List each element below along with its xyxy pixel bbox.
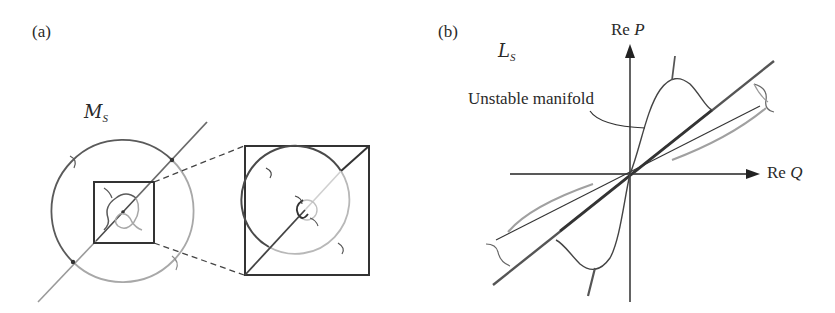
intersection-dot-lower	[71, 260, 75, 264]
manifold-label-main: M	[84, 101, 102, 122]
dashed-connector-bottom	[154, 243, 244, 275]
y-axis-label: Re P	[611, 20, 645, 40]
zoomed-tick-left	[266, 168, 271, 178]
x-axis-label: Re Q	[767, 163, 802, 183]
inner-loop-light	[115, 198, 142, 230]
x-axis-arrowhead	[746, 169, 760, 179]
zoomed-diagonal-dark-lower	[245, 210, 305, 275]
manifold-label-sub: S	[102, 112, 108, 124]
unstable-branch-top	[672, 56, 675, 80]
panel-a-label: (a)	[32, 22, 51, 42]
diagonal-line-lower	[38, 241, 96, 302]
lagrangian-label-sub: S	[510, 51, 516, 63]
y-axis-arrowhead	[625, 44, 635, 58]
inner-loop-tick	[104, 188, 112, 198]
annotation-pointer	[590, 111, 645, 128]
zoomed-diagonal-light	[305, 171, 341, 210]
zoomed-tick-right	[338, 243, 343, 254]
x-axis-label-var: Q	[790, 163, 802, 182]
figure: (a) MS (b) LS Re P Re Q Unstable manifol…	[0, 0, 835, 313]
zoomed-circle-dark-arc	[241, 146, 341, 247]
outer-circle-light-arc	[73, 160, 194, 282]
zoomed-diagonal-dark-upper	[341, 146, 369, 171]
unstable-manifold-upper	[630, 79, 712, 174]
manifold-thick-diagonal-mid	[560, 110, 712, 231]
zoomed-circle-light-arc	[269, 171, 349, 254]
manifold-label-m-s: MS	[84, 101, 108, 122]
diagram-canvas	[0, 0, 835, 313]
unstable-manifold-lower	[556, 174, 630, 269]
panel-a-drawing	[38, 122, 369, 302]
panel-b-label: (b)	[438, 22, 458, 42]
lagrangian-label-main: L	[498, 40, 510, 61]
manifold-label-l-s: LS	[498, 40, 515, 61]
grey-arc-upper-right	[672, 108, 766, 160]
y-axis-label-prefix: Re	[611, 20, 634, 39]
y-axis-label-var: P	[634, 20, 644, 39]
left-end-bracket	[486, 244, 510, 266]
x-axis-label-prefix: Re	[767, 163, 790, 182]
panel-b-drawing	[486, 44, 774, 302]
grey-arc-lower-left	[508, 184, 593, 232]
unstable-branch-bottom	[588, 268, 595, 296]
intersection-dot-upper	[170, 158, 174, 162]
unstable-manifold-annotation: Unstable manifold	[468, 89, 594, 109]
